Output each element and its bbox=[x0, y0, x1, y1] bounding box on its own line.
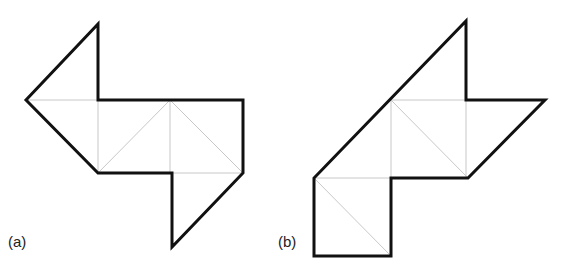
fold-line bbox=[391, 100, 468, 178]
fold-line bbox=[314, 178, 391, 256]
fold-line bbox=[98, 100, 170, 173]
panel-a-shape bbox=[26, 24, 243, 247]
panel-a-label: (a) bbox=[8, 233, 26, 250]
figure-canvas bbox=[0, 0, 569, 270]
fold-line bbox=[170, 100, 243, 173]
panel-b-label: (b) bbox=[278, 233, 296, 250]
panel-b-shape bbox=[314, 21, 545, 256]
